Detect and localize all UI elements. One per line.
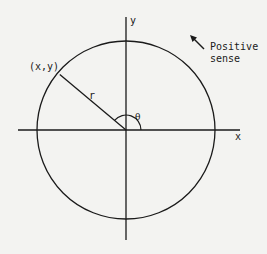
polar-diagram: y x (x,y) r θ Positive sense: [0, 0, 267, 254]
diagram-canvas: y x (x,y) r θ Positive sense: [0, 0, 267, 254]
positive-sense-label-line1: Positive: [210, 41, 258, 52]
radius-label: r: [89, 90, 95, 101]
angle-label: θ: [135, 112, 140, 122]
positive-sense-arrow-icon: [190, 35, 204, 49]
radius-line: [60, 75, 126, 131]
point-label: (x,y): [29, 61, 59, 72]
positive-sense-label-line2: sense: [210, 53, 240, 64]
y-axis-label: y: [130, 15, 136, 26]
x-axis-label: x: [235, 131, 241, 142]
